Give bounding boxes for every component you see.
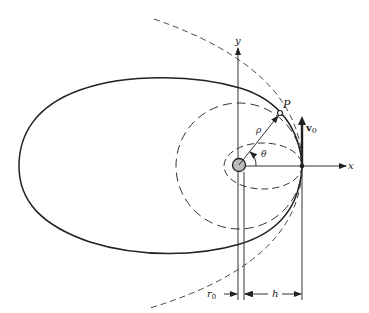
v0-arrowhead [298, 116, 306, 125]
parabolic-escape [150, 19, 302, 308]
rho-vector [239, 116, 278, 165]
x-axis-label: x [348, 160, 354, 171]
point-p [278, 111, 283, 116]
v0-label-sub: 0 [312, 126, 317, 135]
h-label: h [272, 288, 278, 299]
theta-arc [250, 152, 256, 166]
point-p-label: P [282, 98, 291, 111]
r0-label-sub: 0 [212, 293, 216, 301]
orbit-diagram: y x P ρ θ v0 r0 h [0, 0, 369, 313]
v0-label: v0 [305, 122, 317, 135]
theta-label: θ [261, 149, 267, 159]
y-axis-label: y [234, 35, 241, 46]
rho-label: ρ [255, 125, 262, 135]
r0-label: r0 [207, 288, 216, 301]
